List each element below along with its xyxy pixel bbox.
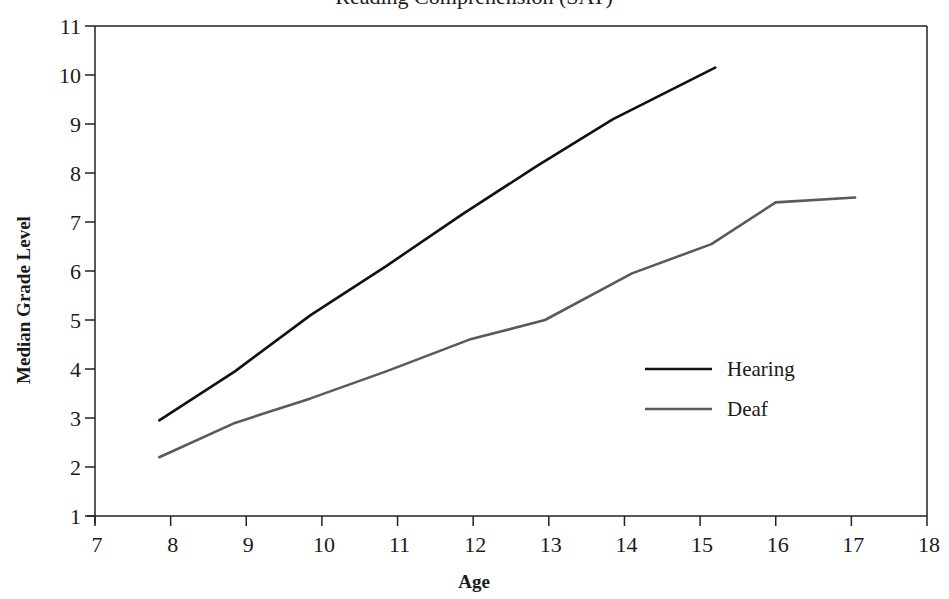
y-tick-label: 10 [59,63,81,88]
x-tick-label: 12 [464,532,486,557]
chart-title: Reading Comprehension (SAT) [335,0,612,9]
x-axis-title: Age [458,571,490,592]
x-tick-label: 8 [167,532,178,557]
legend-label-deaf: Deaf [727,397,768,421]
x-tick-label: 14 [615,532,637,557]
x-axis: 789101112131415161718 [92,516,941,557]
x-tick-label: 18 [918,532,940,557]
plot-frame [87,26,927,524]
y-tick-label: 2 [70,455,81,480]
y-tick-label: 9 [70,112,81,137]
legend-label-hearing: Hearing [727,357,795,381]
x-tick-label: 7 [92,532,103,557]
y-tick-label: 7 [70,210,81,235]
x-tick-label: 17 [842,532,864,557]
y-axis-title: Median Grade Level [13,216,34,384]
y-tick-label: 6 [70,259,81,284]
y-tick-label: 11 [60,14,81,39]
line-chart: Reading Comprehension (SAT) 123456789101… [0,0,949,599]
x-tick-label: 11 [389,532,410,557]
x-tick-label: 9 [243,532,254,557]
y-tick-label: 8 [70,161,81,186]
y-tick-label: 5 [70,308,81,333]
x-tick-label: 16 [767,532,789,557]
x-tick-label: 10 [313,532,335,557]
series-line-hearing [159,68,715,421]
y-axis: 1234567891011 [59,14,95,529]
x-tick-label: 13 [540,532,562,557]
y-tick-label: 4 [70,357,81,382]
legend: HearingDeaf [645,357,795,421]
y-tick-label: 1 [70,504,81,529]
y-tick-label: 3 [70,406,81,431]
x-tick-label: 15 [691,532,713,557]
